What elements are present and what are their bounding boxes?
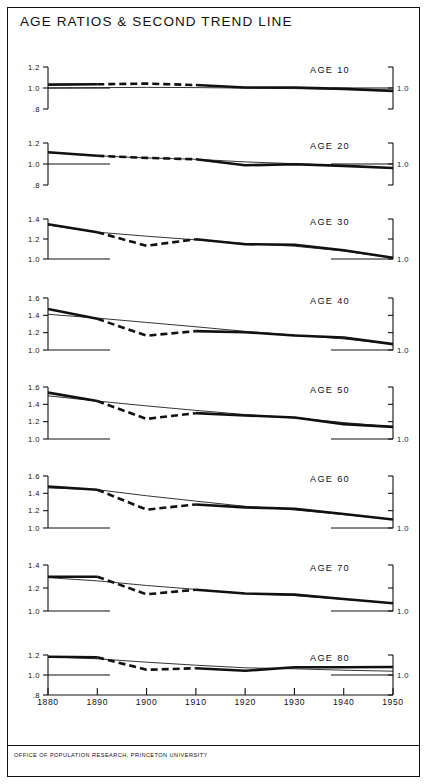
chart-panel-age-70: 1.01.21.41.0AGE 70 [0, 555, 427, 630]
y-tick-label: .8 [33, 105, 40, 114]
y-tick-label: 1.0 [28, 346, 40, 355]
x-tick-label: 1890 [87, 697, 109, 707]
y-tick-label: 1.0 [28, 524, 40, 533]
age-ratio-line-dashed [97, 657, 196, 670]
panel-label: AGE 60 [310, 474, 350, 484]
right-axis-label: 1.0 [397, 255, 409, 264]
age-ratio-line-late [196, 239, 393, 258]
y-tick-label: 1.6 [28, 472, 40, 481]
chart-panel-age-50: 1.01.21.41.61.0AGE 50 [0, 377, 427, 459]
x-tick-label: 1930 [284, 697, 306, 707]
chart-panel-age-20: .81.01.21.0AGE 20 [0, 133, 427, 203]
y-tick-label: 1.0 [28, 84, 40, 93]
footer-divider [8, 745, 419, 746]
right-axis-label: 1.0 [397, 524, 409, 533]
x-tick-label: 1880 [37, 697, 59, 707]
x-tick-label: 1900 [136, 697, 158, 707]
right-axis-label: 1.0 [397, 346, 409, 355]
y-tick-label: 1.0 [28, 607, 40, 616]
panel-label: AGE 50 [310, 385, 350, 395]
right-axis-label: 1.0 [397, 435, 409, 444]
y-tick-label: 1.4 [28, 489, 40, 498]
age-ratio-line-dashed [97, 84, 196, 85]
panel-label: AGE 70 [310, 563, 350, 573]
y-tick-label: 1.2 [28, 328, 40, 337]
chart-panel-age-40: 1.01.21.41.61.0AGE 40 [0, 288, 427, 370]
y-tick-label: 1.6 [28, 294, 40, 303]
x-tick-label: 1940 [333, 697, 355, 707]
y-tick-label: .8 [33, 181, 40, 190]
chart-figure: AGE RATIOS & SECOND TREND LINE .81.01.21… [0, 0, 427, 784]
y-tick-label: 1.6 [28, 383, 40, 392]
y-tick-label: 1.2 [28, 584, 40, 593]
panel-label: AGE 80 [310, 653, 350, 663]
y-tick-label: 1.2 [28, 651, 40, 660]
x-tick-label: 1920 [234, 697, 256, 707]
right-axis-label: 1.0 [397, 607, 409, 616]
age-ratio-line-dashed [97, 156, 196, 159]
age-ratio-line-early [48, 309, 97, 319]
y-tick-label: 1.0 [28, 671, 40, 680]
y-tick-label: 1.4 [28, 215, 40, 224]
age-ratio-line-early [48, 224, 97, 232]
y-tick-label: 1.4 [28, 561, 40, 570]
age-ratio-line-early [48, 152, 97, 156]
y-tick-label: 1.2 [28, 235, 40, 244]
age-ratio-line-late [196, 504, 393, 519]
panel-label: AGE 20 [310, 141, 350, 151]
panel-label: AGE 30 [310, 217, 350, 227]
panel-label: AGE 40 [310, 296, 350, 306]
age-ratio-line-late [196, 413, 393, 427]
chart-panel-age-30: 1.01.21.41.0AGE 30 [0, 209, 427, 281]
right-axis-label: 1.0 [397, 160, 409, 169]
y-tick-label: 1.2 [28, 506, 40, 515]
x-tick-label: 1950 [382, 697, 404, 707]
age-ratio-line-late [196, 331, 393, 344]
y-tick-label: 1.0 [28, 435, 40, 444]
y-tick-label: 1.0 [28, 255, 40, 264]
y-tick-label: 1.4 [28, 311, 40, 320]
y-tick-label: 1.2 [28, 417, 40, 426]
right-axis-label: 1.0 [397, 671, 409, 680]
y-tick-label: 1.0 [28, 160, 40, 169]
source-credit: OFFICE OF POPULATION RESEARCH, PRINCETON… [14, 752, 208, 758]
page-title: AGE RATIOS & SECOND TREND LINE [20, 14, 293, 29]
age-ratio-line-early [48, 487, 97, 490]
x-tick-label: 1910 [185, 697, 207, 707]
y-tick-label: 1.2 [28, 139, 40, 148]
right-axis-label: 1.0 [397, 84, 409, 93]
chart-panel-age-10: .81.01.21.0AGE 10 [0, 55, 427, 127]
chart-panel-age-60: 1.01.21.41.61.0AGE 60 [0, 466, 427, 548]
panel-label: AGE 10 [310, 65, 350, 75]
age-ratio-line-late [196, 590, 393, 603]
y-tick-label: 1.4 [28, 400, 40, 409]
chart-panel-age-80: .81.01.21.0AGE 8018801890190019101920193… [0, 645, 427, 749]
age-ratio-line-dashed [97, 319, 196, 336]
second-trend-line [48, 396, 393, 427]
y-tick-label: 1.2 [28, 63, 40, 72]
age-ratio-line-dashed [97, 401, 196, 419]
